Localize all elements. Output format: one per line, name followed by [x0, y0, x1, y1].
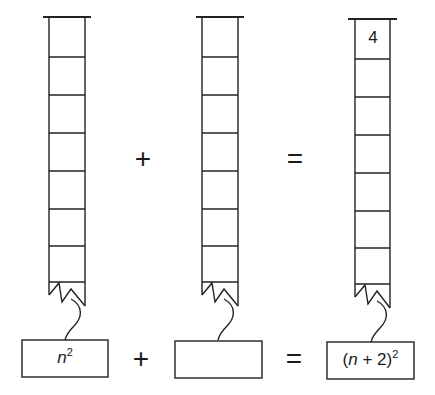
- torn-edge: [355, 285, 390, 308]
- column-middle: [196, 17, 244, 340]
- plus-two-close: + 2): [358, 350, 393, 369]
- string-curve: [218, 299, 233, 340]
- column-left: [43, 17, 91, 340]
- plus-sign-bottom: +: [126, 345, 156, 373]
- box-right-label: (n + 2)2: [327, 350, 414, 370]
- exponent: 2: [392, 348, 398, 360]
- exponent: 2: [67, 346, 73, 358]
- torn-edge: [49, 283, 85, 306]
- string-curve: [65, 299, 80, 340]
- column-right: [348, 19, 397, 342]
- string-curve: [371, 301, 386, 342]
- torn-edge: [202, 283, 238, 306]
- plus-sign-top: +: [128, 145, 158, 173]
- variable-n: n: [348, 350, 357, 369]
- box-left-label: n2: [22, 348, 108, 368]
- variable-n: n: [57, 348, 66, 367]
- box-middle: [175, 341, 262, 378]
- strip-diagram: [0, 0, 435, 395]
- equals-sign-top: =: [280, 145, 310, 173]
- equals-sign-bottom: =: [279, 345, 309, 373]
- right-column-top-cell-value: 4: [355, 28, 391, 48]
